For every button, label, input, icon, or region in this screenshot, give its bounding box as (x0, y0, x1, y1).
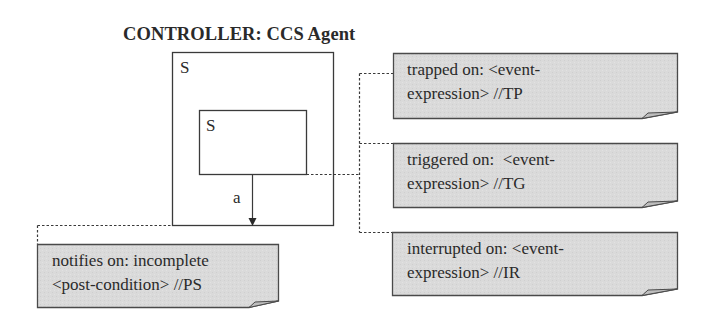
note-notifies-line1: notifies on: incomplete (52, 249, 209, 273)
note-triggered: triggered on: <event- expression> //TG (407, 148, 555, 196)
note-trapped-line2: expression> //TP (407, 82, 540, 106)
note-interrupted-line1: interrupted on: <event- (407, 237, 564, 261)
right-connector (307, 74, 394, 233)
note-notifies-line2: <post-condition> //PS (52, 273, 209, 297)
arrowhead-icon (249, 218, 257, 226)
note-trapped-line1: trapped on: <event- (407, 58, 540, 82)
note-trapped: trapped on: <event- expression> //TP (407, 58, 540, 106)
note-interrupted: interrupted on: <event- expression> //IR (407, 237, 564, 285)
transition-label: a (233, 188, 241, 208)
note-triggered-line1: triggered on: <event- (407, 148, 555, 172)
note-interrupted-line2: expression> //IR (407, 261, 564, 285)
note-triggered-line2: expression> //TG (407, 172, 555, 196)
outer-state-label: S (180, 58, 189, 78)
note-notifies: notifies on: incomplete <post-condition>… (52, 249, 209, 297)
inner-state-label: S (206, 116, 215, 136)
inner-state-box (200, 111, 307, 175)
left-connector (38, 226, 173, 245)
